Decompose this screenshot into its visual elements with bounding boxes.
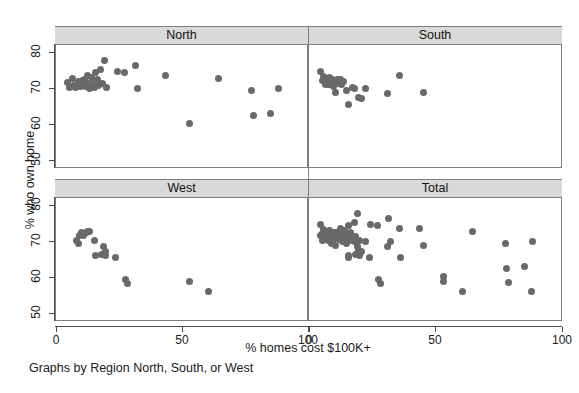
y-axis-tick bbox=[49, 160, 54, 161]
data-point bbox=[420, 89, 427, 96]
data-point bbox=[86, 228, 93, 235]
panel-strip-total: Total bbox=[308, 179, 562, 198]
data-point bbox=[124, 280, 131, 287]
panel-strip-west: West bbox=[55, 179, 308, 198]
panel-strip-south: South bbox=[308, 26, 562, 45]
data-point bbox=[396, 225, 403, 232]
data-point bbox=[374, 222, 381, 229]
y-axis-tick-label: 70 bbox=[29, 227, 43, 253]
data-point bbox=[440, 278, 447, 285]
panel-strip-label: North bbox=[166, 28, 197, 42]
data-point bbox=[529, 238, 536, 245]
panel-strip-north: North bbox=[55, 26, 308, 45]
x-axis-tick-label: 0 bbox=[36, 333, 76, 347]
panel-points-north bbox=[56, 45, 308, 168]
data-point bbox=[387, 238, 394, 245]
data-point bbox=[362, 238, 369, 245]
data-point bbox=[420, 242, 427, 249]
data-point bbox=[186, 120, 193, 127]
y-axis-tick-label: 70 bbox=[29, 74, 43, 100]
y-axis-tick-label: 80 bbox=[29, 38, 43, 64]
data-point bbox=[503, 265, 510, 272]
data-point bbox=[114, 68, 121, 75]
data-point bbox=[521, 263, 528, 270]
y-axis-tick-label: 50 bbox=[29, 146, 43, 172]
data-point bbox=[358, 248, 365, 255]
y-axis-line bbox=[54, 197, 55, 321]
data-point bbox=[75, 240, 82, 247]
data-point bbox=[351, 219, 358, 226]
x-axis-tick bbox=[309, 327, 310, 332]
data-point bbox=[332, 242, 339, 249]
data-point bbox=[351, 85, 358, 92]
y-axis-tick bbox=[49, 313, 54, 314]
y-axis-tick-label: 80 bbox=[29, 191, 43, 217]
x-axis-tick-label: 50 bbox=[415, 333, 455, 347]
panel-strip-label: Total bbox=[422, 181, 448, 195]
data-point bbox=[397, 254, 404, 261]
panel-points-total bbox=[309, 198, 562, 321]
x-axis-tick bbox=[182, 327, 183, 332]
panel-points-south bbox=[309, 45, 562, 168]
data-point bbox=[103, 84, 110, 91]
data-point bbox=[186, 278, 193, 285]
data-point bbox=[102, 252, 109, 259]
data-point bbox=[345, 101, 352, 108]
data-point bbox=[502, 240, 509, 247]
data-point bbox=[101, 57, 108, 64]
data-point bbox=[215, 75, 222, 82]
data-point bbox=[358, 95, 365, 102]
data-point bbox=[416, 225, 423, 232]
data-point bbox=[205, 288, 212, 295]
data-point bbox=[385, 215, 392, 222]
y-axis-tick bbox=[49, 88, 54, 89]
data-point bbox=[505, 279, 512, 286]
y-axis-tick bbox=[49, 205, 54, 206]
data-point bbox=[354, 210, 361, 217]
x-axis-tick-label: 100 bbox=[542, 333, 579, 347]
data-point bbox=[91, 237, 98, 244]
data-point bbox=[162, 72, 169, 79]
y-axis-tick-label: 60 bbox=[29, 263, 43, 289]
x-axis-tick bbox=[435, 327, 436, 332]
x-axis-tick bbox=[56, 327, 57, 332]
data-point bbox=[248, 87, 255, 94]
x-axis-tick bbox=[562, 327, 563, 332]
data-point bbox=[250, 112, 257, 119]
x-axis-tick-label: 50 bbox=[162, 333, 202, 347]
data-point bbox=[121, 69, 128, 76]
data-point bbox=[469, 228, 476, 235]
scatter-plot-matrix-figure: % who own home % homes cost $100K+ Graph… bbox=[0, 0, 579, 393]
data-point bbox=[267, 110, 274, 117]
figure-caption: Graphs by Region North, South, or West bbox=[29, 361, 253, 375]
data-point bbox=[459, 288, 466, 295]
panel-strip-label: West bbox=[167, 181, 195, 195]
panel-points-west bbox=[56, 198, 308, 321]
data-point bbox=[97, 66, 104, 73]
data-point bbox=[275, 85, 282, 92]
data-point bbox=[528, 288, 535, 295]
column-divider bbox=[308, 26, 309, 321]
data-point bbox=[384, 90, 391, 97]
data-point bbox=[396, 72, 403, 79]
y-axis-tick bbox=[49, 124, 54, 125]
data-point bbox=[367, 221, 374, 228]
data-point bbox=[340, 78, 347, 85]
y-axis-line bbox=[54, 44, 55, 168]
data-point bbox=[134, 85, 141, 92]
y-axis-tick-label: 50 bbox=[29, 299, 43, 325]
y-axis-tick bbox=[49, 241, 54, 242]
panel-strip-label: South bbox=[419, 28, 452, 42]
data-point bbox=[366, 254, 373, 261]
x-axis-tick-label: 0 bbox=[289, 333, 329, 347]
data-point bbox=[132, 62, 139, 69]
data-point bbox=[332, 89, 339, 96]
data-point bbox=[362, 85, 369, 92]
data-point bbox=[377, 280, 384, 287]
y-axis-tick-label: 60 bbox=[29, 110, 43, 136]
data-point bbox=[112, 254, 119, 261]
y-axis-tick bbox=[49, 277, 54, 278]
y-axis-tick bbox=[49, 52, 54, 53]
